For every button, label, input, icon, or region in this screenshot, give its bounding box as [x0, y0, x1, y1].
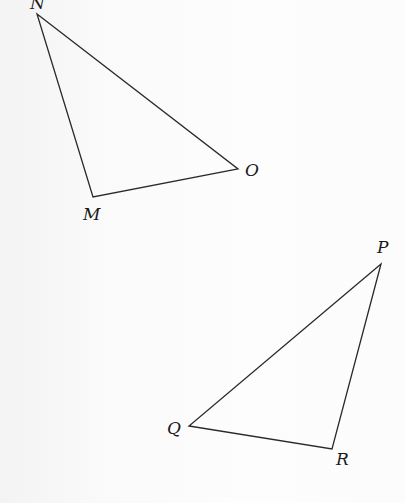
- vertex-label-p: P: [377, 239, 388, 256]
- vertex-label-q: Q: [167, 420, 181, 437]
- vertex-label-n: N: [30, 0, 45, 12]
- triangle-mno: [37, 14, 238, 197]
- vertex-label-m: M: [83, 206, 100, 223]
- vertex-label-o: O: [245, 162, 259, 179]
- geometry-figure: N O M P Q R: [0, 0, 405, 503]
- vertex-label-r: R: [336, 451, 349, 468]
- triangle-pqr: [189, 264, 381, 449]
- triangles-svg: [0, 0, 405, 503]
